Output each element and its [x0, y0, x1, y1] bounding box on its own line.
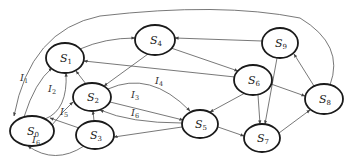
edge-s1-to-s4 — [80, 38, 135, 49]
edge-s5-to-s7 — [218, 127, 244, 136]
edge-s3-to-s0 — [28, 146, 84, 156]
node-s2: S2 — [73, 83, 111, 111]
edge-s5-to-s3 — [114, 127, 182, 137]
edge-s7-to-s8 — [279, 110, 310, 133]
edge-s3-to-s0 — [50, 118, 79, 128]
edge-s9-to-s4 — [175, 38, 262, 41]
node-s7: S7 — [244, 124, 280, 152]
node-s1: S1 — [46, 43, 84, 73]
edge-label-i4: I4 — [154, 75, 163, 88]
edge-label-i2: I2 — [47, 83, 56, 96]
edge-s4-to-s6 — [171, 48, 238, 71]
node-s8: S8 — [305, 84, 343, 114]
node-s4: S4 — [135, 25, 175, 55]
edge-s6-to-s8 — [271, 84, 305, 96]
state-transition-diagram: S0S1S2S3S4S5S6S7S8S9 I1I2I3I4I6I5I6 — [0, 0, 349, 157]
edge-s3-to-s2 — [93, 111, 94, 121]
edge-s6-to-s7 — [258, 95, 260, 124]
graph-canvas: S0S1S2S3S4S5S6S7S8S9 I1I2I3I4I6I5I6 — [0, 0, 349, 157]
nodes-layer: S0S1S2S3S4S5S6S7S8S9 — [10, 25, 343, 152]
node-s3: S3 — [76, 121, 114, 149]
edge-s2-to-s5 — [108, 83, 190, 111]
node-s9: S9 — [262, 28, 298, 58]
edge-label-i3: I3 — [130, 89, 139, 102]
node-s5: S5 — [182, 110, 218, 138]
edge-s6-to-s1 — [84, 61, 235, 77]
edge-s2-to-s5 — [110, 102, 183, 120]
edge-s2-to-s1 — [76, 71, 86, 84]
edge-s8-to-s9 — [294, 54, 314, 86]
edge-s4-to-s2 — [104, 54, 148, 86]
node-s6: S6 — [234, 65, 272, 95]
edge-s6-to-s5 — [210, 93, 245, 112]
